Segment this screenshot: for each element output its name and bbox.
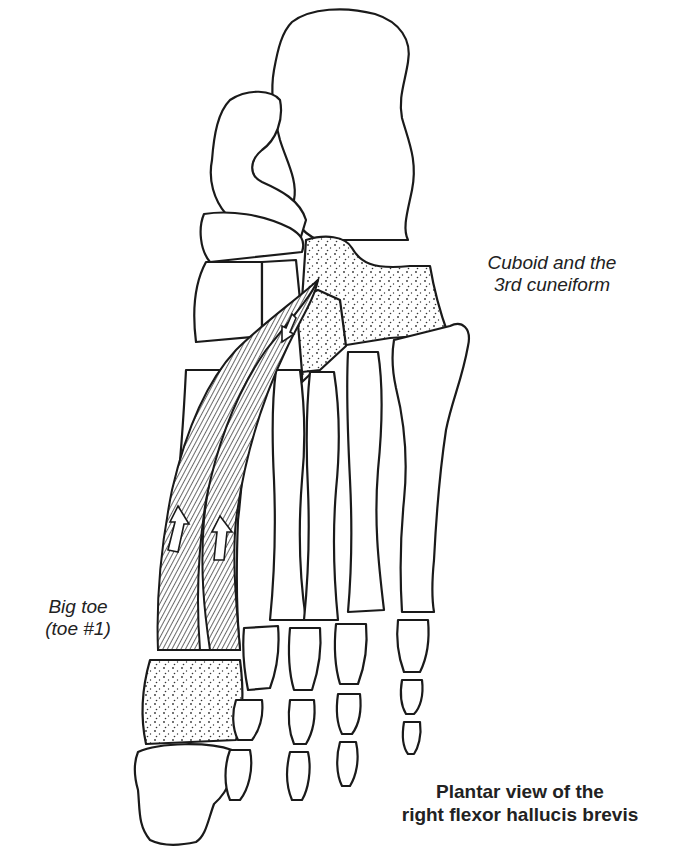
metatarsal-2: [270, 370, 306, 620]
toe-4-distal: [337, 742, 357, 786]
insertion-label-line-2: (toe #1): [28, 618, 128, 640]
origin-label-line-2: 3rd cuneiform: [452, 274, 652, 296]
metatarsal-4: [347, 352, 384, 612]
toe-4-middle: [337, 694, 361, 734]
anatomy-diagram: Cuboid and the 3rd cuneiform Big toe (to…: [0, 0, 677, 860]
toe-5-distal: [403, 722, 421, 754]
metatarsal-3: [304, 372, 339, 620]
medial-cuneiform-bone: [194, 262, 262, 342]
metatarsal-5: [393, 324, 469, 612]
toe-4-proximal: [335, 624, 367, 684]
insertion-label: Big toe (toe #1): [28, 596, 128, 640]
origin-label-line-1: Cuboid and the: [452, 252, 652, 274]
toe-3-middle: [289, 700, 315, 744]
toe-3-distal: [287, 752, 309, 800]
diagram-caption: Plantar view of the right flexor halluci…: [370, 780, 670, 826]
insertion-label-line-1: Big toe: [28, 596, 128, 618]
caption-line-1: Plantar view of the: [370, 780, 670, 803]
big-toe-proximal-phalanx: [143, 660, 243, 744]
toe-2-proximal: [243, 626, 278, 690]
toe-5-middle: [401, 680, 423, 714]
toe-3-proximal: [289, 628, 321, 690]
toe-2-distal: [226, 750, 252, 800]
toe-5-proximal: [397, 620, 428, 672]
origin-label: Cuboid and the 3rd cuneiform: [452, 252, 652, 296]
big-toe-distal-phalanx: [135, 744, 233, 845]
foot-skeleton-illustration: [0, 0, 677, 860]
caption-line-2: right flexor hallucis brevis: [370, 803, 670, 826]
toe-2-middle: [233, 700, 262, 740]
